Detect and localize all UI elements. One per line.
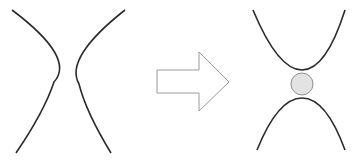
right-branch-curve — [76, 10, 125, 153]
left-branch-curve — [12, 10, 60, 153]
top-branch-curve — [253, 10, 345, 70]
right-arrow-icon — [157, 52, 229, 111]
before-hyperbola — [12, 10, 125, 153]
center-circle — [291, 73, 313, 95]
diagram-canvas — [0, 0, 358, 160]
bottom-branch-curve — [257, 98, 345, 150]
